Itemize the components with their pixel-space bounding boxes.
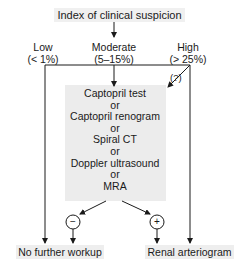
tier-high-name: High bbox=[153, 41, 223, 53]
negative-result-icon: − bbox=[66, 216, 80, 228]
or-4: or bbox=[50, 169, 180, 181]
outcome-renal-arteriogram: Renal arteriogram bbox=[140, 246, 239, 258]
tier-moderate: Moderate (5–15%) bbox=[79, 41, 149, 65]
tests-list: Captopril test or Captopril renogram or … bbox=[50, 88, 180, 192]
diagram-title: Index of clinical suspicion bbox=[0, 9, 239, 21]
positive-result-icon: + bbox=[150, 216, 164, 228]
test-captopril: Captopril test bbox=[50, 88, 180, 100]
tier-low: Low (< 1%) bbox=[8, 41, 78, 65]
tier-high-range: (> 25%) bbox=[153, 53, 223, 65]
outcome-no-workup: No further workup bbox=[0, 246, 120, 258]
test-mra: MRA bbox=[50, 181, 180, 193]
tier-moderate-range: (5–15%) bbox=[79, 53, 149, 65]
tier-moderate-name: Moderate bbox=[79, 41, 149, 53]
uncertain-label: (?) bbox=[170, 72, 182, 84]
tier-low-name: Low bbox=[8, 41, 78, 53]
tier-low-range: (< 1%) bbox=[8, 53, 78, 65]
or-3: or bbox=[50, 146, 180, 158]
tier-high: High (> 25%) bbox=[153, 41, 223, 65]
